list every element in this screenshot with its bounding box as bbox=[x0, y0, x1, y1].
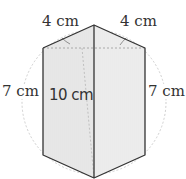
label-right-side: 7 cm bbox=[148, 84, 185, 99]
label-top-right-edge: 4 cm bbox=[120, 14, 157, 29]
label-height: 10 cm bbox=[49, 88, 93, 103]
label-left-side: 7 cm bbox=[2, 84, 39, 99]
label-top-left-edge: 4 cm bbox=[42, 14, 79, 29]
